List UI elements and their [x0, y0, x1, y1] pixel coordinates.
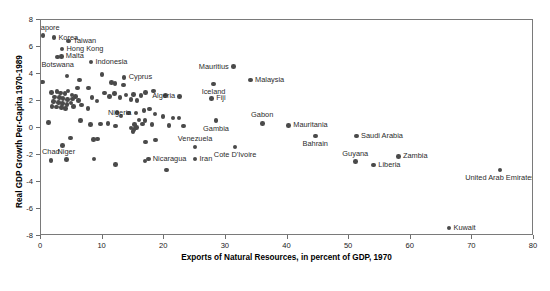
data-point [140, 122, 145, 127]
y-axis-tick [36, 208, 40, 209]
data-point [193, 157, 198, 162]
y-axis-tick-label: 4 [29, 69, 33, 78]
data-point [107, 94, 112, 99]
x-axis-tick [348, 235, 349, 239]
data-point [76, 98, 81, 103]
data-point [95, 137, 100, 142]
data-point-label: Guyana [342, 150, 368, 158]
data-point [131, 92, 136, 97]
x-axis-title: Exports of Natural Resources, in percent… [40, 253, 533, 262]
data-point-label: Malaysia [255, 76, 284, 84]
data-point [86, 106, 91, 111]
plot-frame: SingaporeKoreaTaiwanHong KongMaltaBotswa… [40, 19, 533, 235]
data-point-label: Bahrain [302, 140, 327, 148]
x-axis-tick-label: 70 [467, 241, 475, 250]
y-axis-tick-label: 8 [29, 15, 33, 24]
data-point-label: Mauritius [199, 63, 229, 71]
data-point [214, 118, 219, 123]
data-point [211, 82, 216, 87]
data-point [63, 106, 68, 111]
data-point [68, 136, 73, 141]
data-point [60, 47, 65, 52]
data-point [49, 158, 54, 163]
data-point [109, 80, 114, 85]
data-point [164, 168, 169, 173]
data-point [171, 116, 176, 121]
data-point-label: Fiji [216, 94, 225, 102]
data-point [54, 105, 59, 110]
data-point [167, 123, 172, 128]
y-axis-tick-label: 6 [29, 42, 33, 51]
data-point [150, 122, 155, 127]
data-point [78, 118, 83, 123]
data-point [153, 112, 158, 117]
data-point-label: United Arab Emirates [465, 174, 532, 182]
data-point [100, 72, 105, 77]
x-axis-tick-label: 0 [38, 241, 42, 250]
y-axis-title: Real GDP Growth Per-Capita 1970-1989 [15, 32, 24, 232]
data-point-label: Nigeria [108, 109, 131, 117]
data-point [131, 129, 136, 134]
data-point-label: Algeria [152, 92, 175, 100]
y-axis-tick [36, 19, 40, 20]
data-point-label: Venezuela [178, 135, 213, 143]
data-point [161, 114, 166, 119]
data-point-label: Saudi Arabia [361, 132, 403, 140]
data-point [79, 103, 84, 108]
data-point [41, 33, 45, 38]
data-point [89, 60, 94, 65]
data-point-label: Nicaragua [153, 155, 187, 163]
data-point [231, 64, 236, 69]
data-point [146, 157, 151, 162]
x-axis-tick [287, 235, 288, 239]
data-point [88, 122, 93, 127]
data-point [135, 98, 140, 103]
data-point [49, 90, 54, 95]
y-axis-tick [36, 181, 40, 182]
data-point-label: Singapore [41, 24, 60, 32]
data-point [122, 75, 127, 80]
data-point [92, 157, 97, 162]
y-axis-tick [36, 127, 40, 128]
x-axis-tick [471, 235, 472, 239]
data-point-label: Indonesia [95, 58, 127, 66]
data-point [248, 78, 253, 83]
y-axis-tick-label: 2 [29, 96, 33, 105]
x-axis-tick-label: 40 [282, 241, 290, 250]
data-point [65, 74, 70, 79]
plot-area: SingaporeKoreaTaiwanHong KongMaltaBotswa… [41, 20, 532, 234]
data-point [113, 162, 118, 167]
data-point-label: Botswana [41, 61, 73, 69]
data-point-label: Cote D'Ivoire [214, 151, 257, 159]
data-point [124, 93, 129, 98]
x-axis-tick [533, 235, 534, 239]
data-point [121, 83, 126, 88]
x-axis-tick [40, 235, 41, 239]
data-point [139, 93, 144, 98]
y-axis-tick-label: -2 [26, 150, 33, 159]
data-point-label: Cyprus [129, 73, 152, 81]
data-point [129, 97, 134, 102]
data-point [75, 86, 80, 91]
data-point [447, 226, 452, 231]
data-point [193, 145, 198, 150]
x-axis-tick [225, 235, 226, 239]
data-point [66, 89, 71, 94]
x-axis-tick-label: 30 [221, 241, 229, 250]
data-point [286, 123, 291, 128]
x-axis-tick [410, 235, 411, 239]
y-axis-tick [36, 73, 40, 74]
data-point [353, 159, 358, 164]
data-point-label: Kuwait [453, 224, 475, 232]
data-point [143, 90, 148, 95]
data-point [113, 124, 118, 129]
data-point [106, 121, 111, 126]
x-axis-tick [163, 235, 164, 239]
data-point [147, 107, 152, 112]
data-point [143, 140, 148, 145]
data-point [90, 95, 95, 100]
data-point [41, 80, 45, 85]
x-axis-tick-label: 20 [159, 241, 167, 250]
data-point [181, 124, 186, 129]
x-axis-tick-label: 50 [344, 241, 352, 250]
